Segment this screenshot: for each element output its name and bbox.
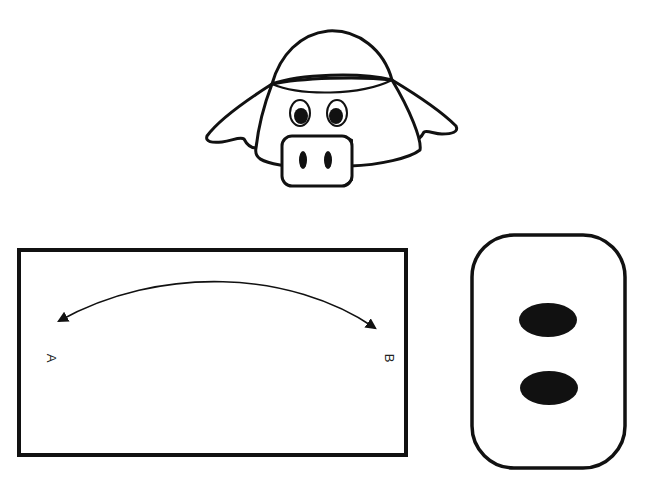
- headband-rectangle: [19, 250, 406, 455]
- snout-outline: [472, 235, 625, 468]
- pig-head-illustration: [207, 31, 457, 186]
- snout-template: [472, 235, 625, 468]
- headband-template: A B: [19, 250, 406, 455]
- bottom-nostril: [520, 371, 578, 405]
- label-b: B: [382, 354, 397, 363]
- right-eye-pupil: [329, 108, 343, 124]
- snout: [282, 136, 352, 186]
- craft-template-canvas: A B: [0, 0, 651, 487]
- top-nostril: [519, 303, 577, 337]
- left-eye-pupil: [294, 108, 308, 124]
- cap-dome: [272, 31, 392, 84]
- left-nostril: [299, 151, 307, 169]
- right-nostril: [324, 151, 332, 169]
- label-a: A: [44, 354, 59, 363]
